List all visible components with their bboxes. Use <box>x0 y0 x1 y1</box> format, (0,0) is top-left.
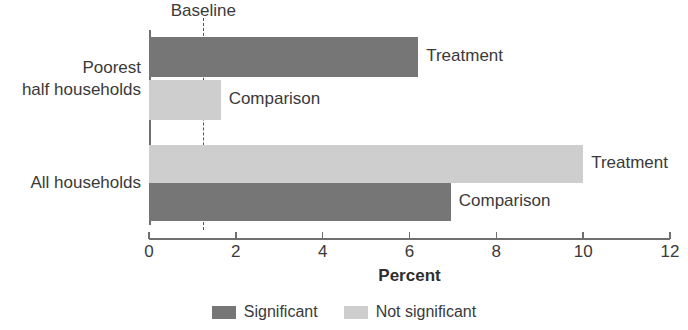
x-tick-0 <box>148 232 150 239</box>
category-label-all-households: All households <box>0 172 141 194</box>
legend-swatch-not-significant <box>344 306 368 319</box>
bar-poorest-half-households-comparison <box>149 80 221 120</box>
bar-label-poorest-half-households-comparison: Comparison <box>229 89 321 109</box>
legend-swatch-significant <box>212 306 236 319</box>
bar-label-all-households-treatment: Treatment <box>591 153 668 173</box>
legend-label-not-significant: Not significant <box>376 303 477 321</box>
x-tick-label-8: 8 <box>492 242 501 262</box>
x-axis-title: Percent <box>149 266 670 286</box>
x-tick-label-12: 12 <box>661 242 680 262</box>
x-tick-label-4: 4 <box>318 242 327 262</box>
legend: Significant Not significant <box>0 303 688 321</box>
bar-poorest-half-households-treatment <box>149 37 418 77</box>
bar-all-households-treatment <box>149 145 583 183</box>
legend-item-not-significant: Not significant <box>344 303 477 321</box>
x-tick-label-10: 10 <box>574 242 593 262</box>
x-tick-6 <box>409 232 411 239</box>
bar-chart: Baseline 024681012 Pooresthalf household… <box>0 0 688 330</box>
x-tick-label-2: 2 <box>231 242 240 262</box>
x-tick-8 <box>496 232 498 239</box>
x-tick-12 <box>669 232 671 239</box>
baseline-label: Baseline <box>171 1 236 21</box>
legend-item-significant: Significant <box>212 303 318 321</box>
x-tick-label-6: 6 <box>405 242 414 262</box>
x-tick-label-0: 0 <box>144 242 153 262</box>
bar-all-households-comparison <box>149 183 451 221</box>
category-label-poorest-half-households: Pooresthalf households <box>0 57 141 101</box>
x-tick-10 <box>582 232 584 239</box>
x-tick-2 <box>235 232 237 239</box>
legend-label-significant: Significant <box>244 303 318 321</box>
bar-label-poorest-half-households-treatment: Treatment <box>426 46 503 66</box>
bar-label-all-households-comparison: Comparison <box>459 191 551 211</box>
x-tick-4 <box>322 232 324 239</box>
